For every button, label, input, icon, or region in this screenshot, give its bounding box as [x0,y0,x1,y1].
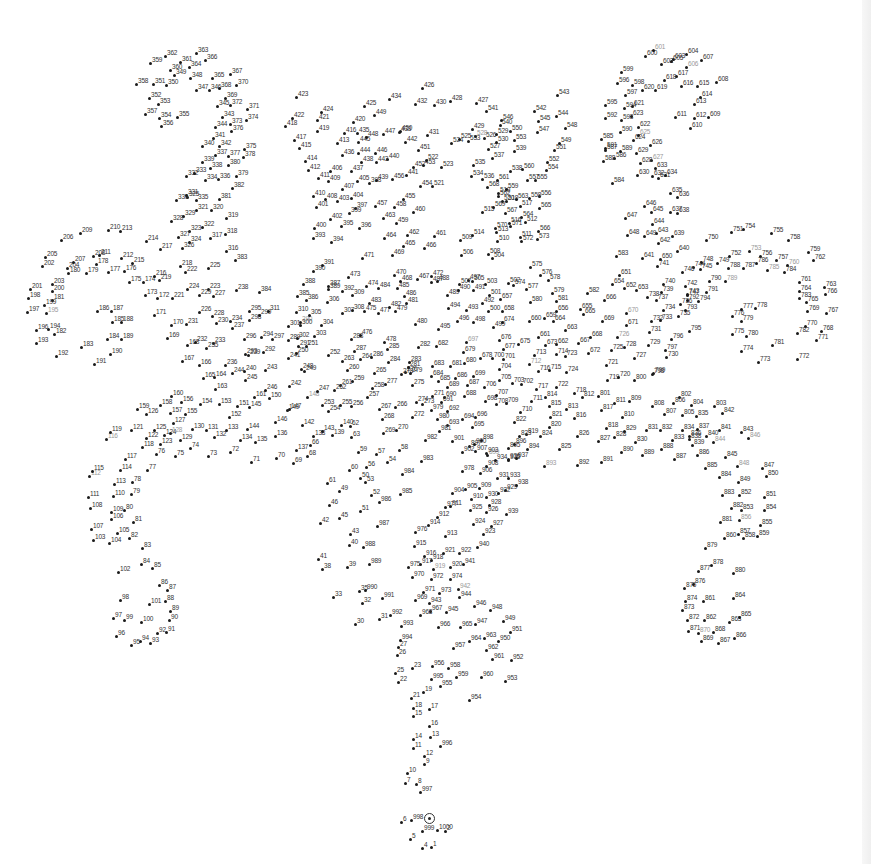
dot-number-label: 249 [306,364,316,371]
dot-number-label: 393 [315,231,325,238]
dot-number-label: 16 [431,719,438,726]
dot-number-label: 772 [799,352,809,359]
dot-number-label: 492 [484,296,494,303]
dot-number-label: 889 [644,448,654,455]
dot-number-label: 319 [228,211,238,218]
dot-number-label: 242 [291,379,301,386]
dot-number-label: 321 [198,203,208,210]
dot-number-label: 381 [221,192,231,199]
dot-number-label: 338 [212,161,222,168]
dot-number-label: 673 [547,338,557,345]
dot-number-label: 187 [113,304,123,311]
page-edge-scrollbar[interactable] [862,0,871,864]
dot-number-label: 650 [662,252,672,259]
dot-number-label: 642 [660,236,670,243]
dot-number-label: 853 [743,503,753,510]
dot-number-label: 541 [488,104,498,111]
dot-number-label: 191 [96,357,106,364]
dot-number-label: 734 [665,303,675,310]
dot-number-label: 494 [450,301,460,308]
dot-number-label: 636 [679,190,689,197]
dot-number-label: 621 [634,99,644,106]
dot-number-label: 813 [568,402,578,409]
dot-number-label: 211 [101,248,111,255]
dot-number-label: 976 [417,525,427,532]
dot-number-label: 577 [528,282,538,289]
dot-number-label: 73 [210,449,217,456]
dot-number-label: 788 [730,261,740,268]
dot-number-label: 193 [38,336,48,343]
dot-number-label: 68 [309,449,316,456]
dot-number-label: 252 [330,348,340,355]
dot-number-label: 877 [700,564,710,571]
dot-number-label: 54 [389,455,396,462]
dot-number-label: 997 [422,785,432,792]
dot-number-label: 893 [546,459,556,466]
dot-number-label: 767 [828,306,838,313]
dot-number-label: 359 [152,56,162,63]
dot-number-label: 386 [308,293,318,300]
dot-number-label: 605 [673,54,683,61]
dot-number-label: 522 [428,153,438,160]
dot-number-label: 192 [58,349,68,356]
dot-number-label: 781 [774,338,784,345]
dot-number-label: 474 [368,279,378,286]
dot-number-label: 927 [493,519,503,526]
dot-number-label: 706 [486,380,496,387]
dot-number-label: 130 [194,422,204,429]
dot-number-label: 711 [533,394,543,401]
dot-number-label: 170 [173,318,183,325]
dot-number-label: 339 [204,155,214,162]
dot-number-label: 647 [627,211,637,218]
dot-number-label: 60 [351,463,358,470]
dot-number-label: 40 [351,538,358,545]
dot-number-label: 231 [188,317,198,324]
dot-number-label: 30 [357,617,364,624]
dot-number-label: 940 [479,540,489,547]
dot-number-label: 269 [385,426,395,433]
dot-number-label: 240 [246,364,256,371]
dot-number-label: 810 [624,410,634,417]
dot-number-label: 754 [745,222,755,229]
dot-number-label: 589 [622,144,632,151]
dot-number-label: 122 [148,431,158,438]
dot-number-label: 94 [142,634,149,641]
dot-number-label: 855 [762,518,772,525]
dot-number-label: 808 [654,399,664,406]
dot-number-label: 971 [425,585,435,592]
dot-number-label: 22 [400,675,407,682]
dot-number-label: 411 [320,171,330,178]
dot-number-label: 405 [359,174,369,181]
dot-number-label: 88 [167,594,174,601]
dot-number-label: 508 [490,247,500,254]
dot-number-label: 640 [679,244,689,251]
dot-number-label: 695 [474,420,484,427]
dot-number-label: 245 [247,373,257,380]
dot-number-label: 535 [475,158,485,165]
dot-number-label: 852 [741,488,751,495]
dot-number-label: 108 [92,501,102,508]
dot-number-label: 496 [459,314,469,321]
dot-number-label: 209 [82,226,92,233]
dot-number-label: 221 [174,291,184,298]
dot-number-label: 257 [369,390,379,397]
dot-number-label: 262 [336,383,346,390]
dot-number-label: 829 [626,424,636,431]
dot-number-label: 202 [44,259,54,266]
dot-number-label: 25 [397,666,404,673]
dot-number-label: 366 [207,53,217,60]
dot-number-label: 661 [540,330,550,337]
dot-number-label: 862 [706,613,716,620]
dot-number-label: 475 [366,304,376,311]
dot-number-label: 378 [245,150,255,157]
dot-number-label: 354 [161,111,171,118]
dot-number-label: 704 [501,362,511,369]
dot-number-label: 820 [551,420,561,427]
dot-number-label: 396 [361,221,371,228]
dot-number-label: 52 [373,488,380,495]
dot-number-label: 243 [267,363,277,370]
dot-number-label: 563 [518,192,528,199]
dot-number-label: 658 [504,304,514,311]
dot-number-label: 230 [218,316,228,323]
dot-number-label: 334 [207,173,217,180]
